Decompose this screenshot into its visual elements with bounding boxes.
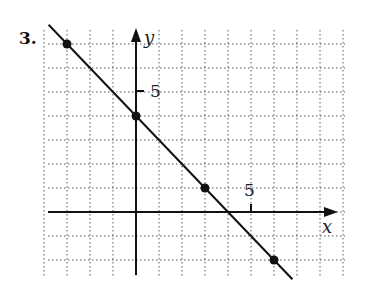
plotted-line — [49, 25, 293, 279]
y-axis-label: y — [143, 27, 155, 48]
y-axis — [131, 28, 141, 275]
x-tick-label: 5 — [244, 180, 255, 200]
x-axis-label: x — [322, 216, 332, 237]
data-point — [201, 184, 210, 193]
x-axis — [48, 207, 338, 217]
y-tick-label: 5 — [150, 81, 161, 101]
data-point — [270, 256, 279, 265]
data-point — [63, 40, 72, 49]
data-point — [132, 112, 141, 121]
coordinate-graph: 5 5 x y — [0, 0, 375, 297]
